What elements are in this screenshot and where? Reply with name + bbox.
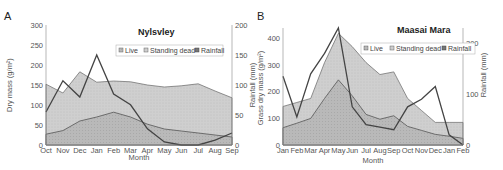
y-tick-label: 150	[30, 81, 43, 90]
y-tick-label: 200	[30, 61, 43, 70]
legend-a: Live Standing dead Rainfall	[116, 45, 225, 56]
x-tick-label: Apr	[319, 146, 331, 155]
x-tick-label: Dec	[73, 146, 87, 155]
y2-tick-label: 100	[235, 81, 248, 90]
legend-swatch-dead	[390, 46, 394, 50]
y2-axis-label-b: Rainfall (mm)	[479, 52, 488, 97]
legend-b: Live Standing dead Rainfall	[361, 43, 475, 54]
x-tick-label: Jan	[91, 146, 103, 155]
legend-swatch-rain	[195, 48, 199, 52]
y-axis-label-b: Grass dry mass (g/m²)	[256, 50, 265, 125]
legend-dead: Standing dead	[396, 45, 441, 53]
y-axis-label-a: Dry mass (g/m²)	[5, 58, 14, 112]
x-tick-label: Jan	[443, 146, 455, 155]
x-axis-label-b: Month	[363, 156, 384, 165]
y2-tick-label: 150	[235, 51, 248, 60]
x-tick-label: Aug	[208, 146, 221, 155]
legend-rain: Rainfall	[448, 45, 472, 52]
legend-swatch-rain	[442, 46, 446, 50]
x-tick-label: Nov	[415, 146, 429, 155]
y-tick-label: 250	[30, 41, 43, 50]
y-tick-label: 100	[267, 114, 280, 123]
panel-label-a: A	[4, 10, 12, 22]
x-tick-label: Oct	[402, 146, 415, 155]
x-tick-label: Sep	[387, 146, 400, 155]
y-tick-label: 200	[267, 87, 280, 96]
x-tick-label: Jul	[193, 146, 203, 155]
legend-swatch-dead	[144, 48, 148, 52]
x-tick-label: Aug	[373, 146, 386, 155]
chart-title-a: Nylsvley	[138, 27, 175, 37]
x-tick-label: Jan	[277, 146, 289, 155]
x-tick-label: Dec	[429, 146, 443, 155]
y-tick-label: 400	[267, 34, 280, 43]
legend-dead: Standing dead	[150, 47, 195, 55]
legend-live: Live	[370, 45, 383, 52]
y-tick-label: 300	[30, 21, 43, 30]
y2-tick-label: 200	[235, 21, 248, 30]
x-axis-label-a: Month	[129, 153, 150, 162]
x-tick-label: Feb	[107, 146, 120, 155]
y2-tick-label: 50	[235, 111, 243, 120]
panel-label-b: B	[257, 10, 264, 22]
x-tick-label: Sep	[225, 146, 238, 155]
x-tick-label: Feb	[290, 146, 303, 155]
legend-rain: Rainfall	[201, 47, 225, 54]
y-tick-label: 50	[35, 121, 43, 130]
x-tick-label: Nov	[56, 146, 70, 155]
y2-tick-label: 100	[466, 90, 479, 99]
x-tick-label: Jul	[361, 146, 371, 155]
figure: 050100150200250300050100150200OctNovDecJ…	[0, 0, 503, 170]
y2-axis-label-a: Rainfall (mm)	[248, 62, 257, 107]
x-tick-label: Oct	[40, 146, 53, 155]
legend-swatch-live	[119, 48, 123, 52]
x-tick-label: Feb	[457, 146, 470, 155]
x-tick-label: Jun	[346, 146, 358, 155]
chart-panel-a: 050100150200250300050100150200OctNovDecJ…	[30, 21, 247, 156]
y-tick-label: 100	[30, 101, 43, 110]
chart-title-b: Maasai Mara	[397, 25, 452, 35]
y-tick-label: 300	[267, 61, 280, 70]
legend-live: Live	[125, 47, 138, 54]
x-tick-label: May	[331, 146, 345, 155]
legend-swatch-live	[364, 46, 368, 50]
x-tick-label: Jun	[175, 146, 187, 155]
x-tick-label: May	[157, 146, 171, 155]
x-tick-label: Mar	[304, 146, 317, 155]
